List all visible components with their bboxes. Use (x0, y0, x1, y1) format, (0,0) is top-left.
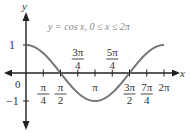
x-tick-label: 5π4 (106, 46, 118, 71)
svg-text:4: 4 (110, 59, 116, 71)
x-tick-label: π (92, 81, 98, 93)
y-axis-up-arrow-icon (23, 12, 30, 21)
origin-label: 0 (15, 78, 21, 90)
x-tick-label: π2 (55, 81, 67, 106)
svg-text:3π: 3π (72, 46, 84, 58)
x-axis-label: x (179, 67, 185, 79)
y-tick-label: 1 (9, 38, 15, 52)
y-axis-down-arrow-icon (23, 121, 30, 130)
svg-text:3π: 3π (124, 81, 136, 93)
cosine-graph: y = cos x, 0 ≤ x ≤ 2π y x 10−1π4π23π4π5π… (0, 0, 190, 133)
svg-text:2: 2 (58, 94, 64, 106)
x-tick-label: 2π (158, 81, 170, 93)
svg-text:4: 4 (144, 94, 150, 106)
svg-text:7π: 7π (141, 81, 153, 93)
x-tick-label: 3π4 (72, 46, 84, 71)
svg-text:π: π (58, 81, 64, 93)
svg-text:4: 4 (75, 59, 81, 71)
y-axis-label: y (21, 0, 27, 12)
x-tick-label: π4 (37, 81, 49, 106)
x-tick-label: 7π4 (141, 81, 153, 106)
x-axis-right-arrow-icon (172, 70, 180, 77)
svg-text:4: 4 (41, 94, 47, 106)
svg-text:π: π (40, 81, 46, 93)
svg-text:2: 2 (127, 94, 133, 106)
x-tick-label: 3π2 (124, 81, 136, 106)
x-axis-left-arrow-icon (4, 70, 12, 77)
chart-title: y = cos x, 0 ≤ x ≤ 2π (47, 21, 131, 32)
y-tick-label: −1 (6, 94, 19, 108)
svg-text:5π: 5π (107, 46, 119, 58)
chart-svg: y = cos x, 0 ≤ x ≤ 2π y x 10−1π4π23π4π5π… (0, 0, 190, 133)
svg-text:π: π (92, 81, 98, 93)
svg-text:2π: 2π (158, 81, 170, 93)
